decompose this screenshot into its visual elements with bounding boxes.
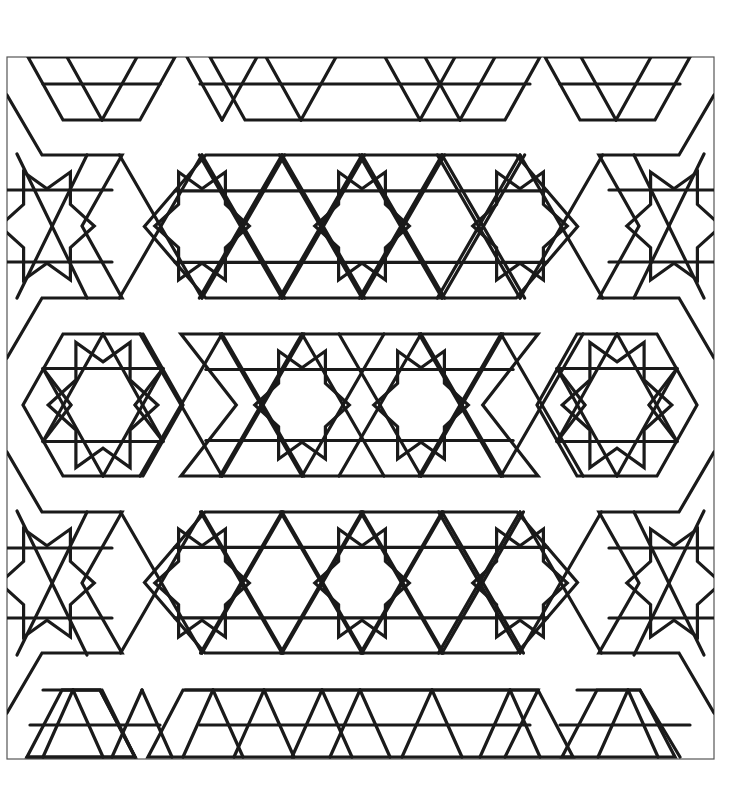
side-star — [627, 172, 722, 280]
band-star — [473, 529, 568, 637]
pattern-line — [581, 57, 616, 120]
side-chevron — [7, 452, 122, 713]
pattern-line — [385, 57, 420, 120]
band-star — [374, 351, 469, 459]
side-star — [627, 529, 722, 637]
pattern-line — [102, 57, 137, 120]
band-star — [315, 529, 410, 637]
pattern-line — [67, 57, 102, 120]
pattern-line — [616, 57, 651, 120]
side-star — [0, 529, 94, 637]
side-chevron — [7, 95, 122, 358]
edge-band — [28, 57, 175, 120]
edge-band — [545, 57, 690, 120]
pattern-line — [420, 57, 455, 120]
side-star — [0, 172, 94, 280]
pattern-line — [425, 57, 460, 120]
side-chevron — [599, 452, 714, 713]
pattern-lines — [0, 57, 721, 757]
pattern-line — [301, 57, 336, 120]
band-star — [255, 351, 349, 459]
coloring-pattern — [0, 0, 740, 808]
pattern-line — [460, 57, 495, 120]
side-chevron — [599, 95, 714, 358]
pattern-line — [266, 57, 301, 120]
band-star — [155, 529, 250, 637]
